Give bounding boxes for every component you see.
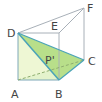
prism-diagram: D E F A B C P' [0, 0, 102, 102]
label-c: C [88, 55, 96, 68]
label-d: D [7, 27, 15, 40]
label-p-prime: P' [45, 54, 55, 67]
label-f: F [87, 2, 93, 15]
label-e: E [51, 20, 58, 33]
edge-ef [59, 8, 84, 33]
label-a: A [11, 88, 19, 101]
prism-svg: D E F A B C P' [0, 0, 102, 102]
label-b: B [55, 88, 63, 101]
